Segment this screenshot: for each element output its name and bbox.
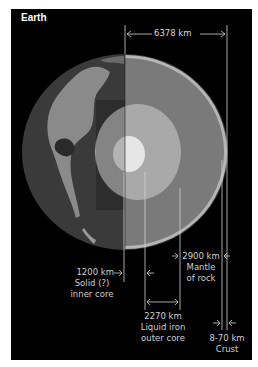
outer-core-value: 2270 km	[136, 311, 190, 322]
inner-core-line2: inner core	[62, 289, 122, 300]
mantle-label: 2900 km Mantle of rock	[178, 251, 224, 284]
inner-core-label: 1200 km Solid (?) inner core	[62, 267, 122, 300]
inner-core-line1: Solid (?)	[62, 278, 122, 289]
outer-core-line1: Liquid iron	[136, 322, 190, 333]
inner-core-value: 1200 km	[62, 267, 122, 278]
mantle-line1: Mantle	[178, 262, 224, 273]
mantle-value: 2900 km	[178, 251, 224, 262]
crust-line1: Crust	[204, 344, 250, 355]
earth-cross-section-diagram	[0, 0, 258, 367]
outer-core-label: 2270 km Liquid iron outer core	[136, 311, 190, 344]
crust-label: 8-70 km Crust	[204, 333, 250, 355]
mantle-line2: of rock	[178, 273, 224, 284]
outer-core-line2: outer core	[136, 333, 190, 344]
radius-label: 6378 km	[154, 28, 192, 39]
crust-value: 8-70 km	[204, 333, 250, 344]
